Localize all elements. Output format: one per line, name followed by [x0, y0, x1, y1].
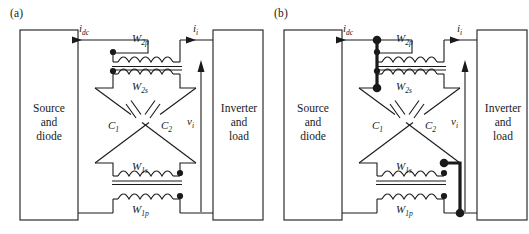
w1p-polarity-dot — [441, 193, 447, 199]
c1-diag-lower-left — [95, 123, 149, 164]
highlight-node-bottom-left — [373, 84, 382, 93]
c2-diag-upper-left — [95, 88, 131, 115]
panel-b-label: (b) — [274, 7, 288, 19]
i-i-label: ii — [193, 22, 198, 37]
panel-b: (b) — [264, 0, 529, 234]
w1p-label: W1p — [132, 203, 149, 218]
i-dc-label: idc — [343, 22, 353, 37]
c1-diag-upper-right — [424, 88, 460, 115]
c2-label: C2 — [161, 119, 172, 134]
v-i-label: vi — [451, 115, 458, 130]
source-label-line3: diode — [286, 129, 340, 143]
source-label-line1: Source — [22, 101, 76, 115]
w1s-label: W1s — [396, 160, 412, 175]
i-i-label: ii — [457, 22, 462, 37]
i-dc-label: idc — [79, 22, 89, 37]
inverter-block-label: Inverter and load — [478, 101, 528, 143]
circuit-figure: (a) — [0, 0, 529, 234]
inverter-label-line2: and — [478, 115, 528, 129]
highlight-node-mid-right — [440, 159, 449, 168]
inverter-label-line2: and — [214, 115, 264, 129]
w1p-polarity-dot — [177, 193, 183, 199]
w1p-coil — [118, 194, 173, 199]
w2s-left-lead — [95, 74, 113, 88]
w2s-label: W2s — [132, 80, 148, 95]
inverter-label-line3: load — [214, 129, 264, 143]
w2s-label: W2s — [396, 80, 412, 95]
w1s-polarity-dot — [441, 170, 447, 176]
inverter-label-line3: load — [478, 129, 528, 143]
w2s-right-lead — [444, 74, 460, 88]
highlight-node-bottom-right — [456, 209, 465, 218]
w2p-coil — [382, 57, 437, 62]
highlight-path-right — [444, 163, 460, 213]
w2p-label: W2p — [396, 32, 413, 47]
v-i-label: vi — [187, 115, 194, 130]
w2p-coil — [118, 57, 173, 62]
source-label-line2: and — [286, 115, 340, 129]
panel-a: (a) — [0, 0, 265, 234]
inverter-label-line1: Inverter — [214, 101, 264, 115]
i-dc-arrowhead — [336, 37, 346, 44]
w1s-left-lead — [95, 163, 113, 176]
c1-diag-upper-right — [160, 88, 196, 115]
w2s-right-lead — [180, 74, 196, 88]
w2s-polarity-dot — [110, 68, 116, 74]
v-i-arrowhead — [462, 60, 469, 72]
i-i-arrowhead — [450, 37, 460, 44]
v-i-arrowhead — [198, 60, 205, 72]
c1-diag-lower-left — [359, 123, 413, 164]
i-dc-arrowhead — [72, 37, 82, 44]
c1-label: C1 — [108, 119, 119, 134]
c1-label: C1 — [372, 119, 383, 134]
w1p-label: W1p — [396, 203, 413, 218]
w1p-coil — [382, 194, 437, 199]
w2p-label: W2p — [132, 32, 149, 47]
source-label-line1: Source — [286, 101, 340, 115]
inverter-label-line1: Inverter — [478, 101, 528, 115]
source-block-label: Source and diode — [22, 101, 76, 143]
source-block-label: Source and diode — [286, 101, 340, 143]
highlight-node-top-left — [373, 36, 382, 45]
w1s-label: W1s — [132, 160, 148, 175]
inverter-block-label: Inverter and load — [214, 101, 264, 143]
panel-a-label: (a) — [10, 7, 23, 19]
w2p-polarity-dot — [110, 49, 116, 55]
c2-label: C2 — [425, 119, 436, 134]
w1s-left-lead — [359, 163, 377, 176]
w1s-polarity-dot — [177, 170, 183, 176]
source-label-line2: and — [22, 115, 76, 129]
source-label-line3: diode — [22, 129, 76, 143]
i-i-arrowhead — [186, 37, 196, 44]
